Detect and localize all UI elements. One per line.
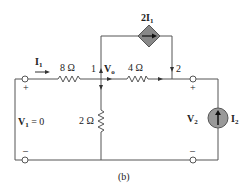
arrow-down-node2 bbox=[170, 67, 174, 72]
terminal-left-bottom bbox=[22, 157, 28, 163]
wires bbox=[15, 36, 218, 160]
label-node1: 1 bbox=[91, 63, 96, 74]
arrow-down-2ohm bbox=[99, 85, 103, 90]
minus-right: – bbox=[189, 145, 196, 156]
label-dep-source: 2I1 bbox=[141, 12, 154, 25]
plus-left: + bbox=[23, 82, 29, 93]
terminal-right-bottom bbox=[190, 157, 196, 163]
minus-left: – bbox=[22, 145, 29, 156]
figure-label: (b) bbox=[118, 171, 130, 183]
plus-right: + bbox=[190, 82, 196, 93]
label-2ohm: 2 Ω bbox=[79, 115, 94, 126]
label-4ohm: 4 Ω bbox=[128, 62, 143, 73]
arrow-right-4ohm bbox=[158, 77, 163, 81]
arrow-up-node1 bbox=[99, 68, 103, 73]
label-node2: 2 bbox=[176, 63, 181, 74]
arrow-right-node1 bbox=[107, 77, 112, 81]
resistor-2ohm bbox=[98, 110, 104, 132]
dependent-current-source bbox=[138, 25, 160, 47]
label-V1: V1 = 0 bbox=[18, 116, 44, 129]
label-Vo: Vo bbox=[104, 63, 115, 76]
label-V2: V2 bbox=[187, 113, 198, 126]
current-source-I2 bbox=[208, 108, 228, 128]
resistor-4ohm bbox=[127, 76, 148, 82]
label-8ohm: 8 Ω bbox=[60, 62, 75, 73]
label-I1: I1 bbox=[35, 56, 43, 69]
resistor-8ohm bbox=[58, 76, 80, 82]
label-I2: I2 bbox=[231, 113, 239, 126]
circuit-diagram: I1 8 Ω 1 Vo 4 Ω 2 2I1 2 Ω + V1 = 0 – + V… bbox=[0, 0, 250, 184]
arrow-I1 bbox=[45, 70, 50, 74]
